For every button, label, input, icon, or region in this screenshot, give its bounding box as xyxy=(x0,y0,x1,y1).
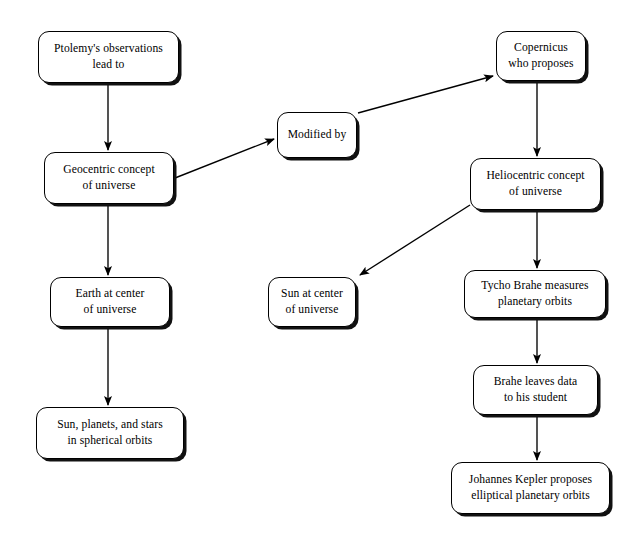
edge-geocentric-to-modified xyxy=(175,139,274,178)
node-ptolemy-observations[interactable]: Ptolemy's observations lead to xyxy=(38,31,179,83)
flowchart-canvas: Ptolemy's observations lead to Geocentri… xyxy=(0,0,632,533)
edge-heliocentric-to-sun xyxy=(360,205,470,275)
node-sun-at-center[interactable]: Sun at center of universe xyxy=(268,277,356,327)
node-label: Ptolemy's observations lead to xyxy=(48,41,169,73)
node-label: Brahe leaves data to his student xyxy=(488,374,583,406)
node-label: Sun, planets, and stars in spherical orb… xyxy=(51,417,169,449)
node-heliocentric-concept[interactable]: Heliocentric concept of universe xyxy=(470,158,601,210)
node-geocentric-concept[interactable]: Geocentric concept of universe xyxy=(44,152,174,204)
node-label: Copernicus who proposes xyxy=(502,40,579,72)
node-label: Tycho Brahe measures planetary orbits xyxy=(475,278,594,310)
edge-modified-to-copernicus xyxy=(358,76,493,113)
node-label: Earth at center of universe xyxy=(69,286,150,318)
node-label: Johannes Kepler proposes elliptical plan… xyxy=(463,472,598,504)
node-tycho-brahe-measures[interactable]: Tycho Brahe measures planetary orbits xyxy=(464,270,606,318)
node-modified-by[interactable]: Modified by xyxy=(277,112,357,158)
node-label: Modified by xyxy=(282,127,353,143)
node-earth-at-center[interactable]: Earth at center of universe xyxy=(50,277,170,327)
node-label: Heliocentric concept of universe xyxy=(480,168,590,200)
node-brahe-leaves-data[interactable]: Brahe leaves data to his student xyxy=(473,365,598,415)
node-johannes-kepler[interactable]: Johannes Kepler proposes elliptical plan… xyxy=(451,462,610,514)
node-label: Geocentric concept of universe xyxy=(57,162,161,194)
node-copernicus[interactable]: Copernicus who proposes xyxy=(496,31,586,81)
node-label: Sun at center of universe xyxy=(275,286,349,318)
node-spherical-orbits[interactable]: Sun, planets, and stars in spherical orb… xyxy=(36,407,184,459)
